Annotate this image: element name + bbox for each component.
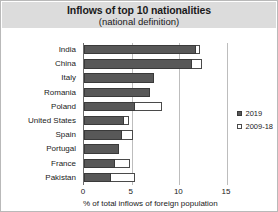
category-label: Poland: [1, 100, 80, 114]
legend: 20192009-18: [237, 109, 273, 131]
x-tick-label: 0: [81, 187, 85, 196]
bar-row: [84, 128, 226, 142]
category-label: France: [1, 157, 80, 171]
bar-2019: [84, 159, 115, 168]
bar-2019: [84, 144, 119, 153]
bar-row: [84, 157, 226, 171]
legend-label: 2009-18: [245, 122, 273, 131]
bar-rows: [84, 43, 226, 185]
category-label: United States: [1, 114, 80, 128]
category-label: Spain: [1, 128, 80, 142]
bar-2019: [84, 102, 135, 111]
x-axis-ticks: 051015: [83, 185, 226, 198]
gridline: [227, 43, 228, 185]
bar-row: [84, 57, 226, 71]
bar-row: [84, 71, 226, 85]
bar-2019: [84, 59, 192, 68]
category-label: Portugal: [1, 142, 80, 156]
title-band: Inflows of top 10 nationalities (nationa…: [2, 2, 276, 28]
plot-area: [83, 43, 226, 185]
bar-2019: [84, 88, 150, 97]
bar-row: [84, 86, 226, 100]
category-label: China: [1, 57, 80, 71]
bar-row: [84, 100, 226, 114]
chart-figure: Inflows of top 10 nationalities (nationa…: [0, 0, 278, 212]
bar-row: [84, 43, 226, 57]
plot-wrapper: IndiaChinaItalyRomaniaPolandUnited State…: [1, 31, 278, 212]
legend-swatch-icon: [237, 111, 242, 116]
bar-2019: [84, 116, 124, 125]
x-axis-title: % of total inflows of foreign population: [83, 199, 218, 208]
bar-2019: [84, 130, 122, 139]
bar-row: [84, 142, 226, 156]
category-label: Italy: [1, 71, 80, 85]
category-label: Romania: [1, 86, 80, 100]
category-label: India: [1, 43, 80, 57]
category-label: Pakistan: [1, 171, 80, 185]
legend-label: 2019: [245, 109, 262, 118]
bar-2019: [84, 173, 111, 182]
category-axis-labels: IndiaChinaItalyRomaniaPolandUnited State…: [1, 43, 80, 185]
x-tick-label: 15: [222, 187, 231, 196]
legend-item: 2019: [237, 109, 273, 118]
chart-subtitle: (national definition): [99, 16, 179, 27]
legend-swatch-icon: [237, 124, 242, 129]
x-tick-label: 10: [174, 187, 183, 196]
chart-title: Inflows of top 10 nationalities: [67, 4, 211, 16]
x-tick-label: 5: [128, 187, 132, 196]
bar-2019: [84, 45, 196, 54]
legend-item: 2009-18: [237, 122, 273, 131]
bar-row: [84, 114, 226, 128]
bar-2019: [84, 73, 154, 82]
bar-row: [84, 171, 226, 185]
